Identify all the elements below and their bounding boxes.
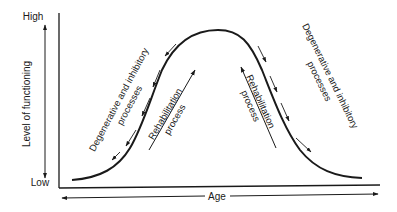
y-axis-high-label: High [23,11,44,22]
x-axis-arrow-left [62,196,205,198]
left-degenerative-arrow-5 [112,152,120,160]
y-axis-low-label: Low [31,177,50,188]
right-degenerative-arrow-4 [296,138,311,152]
x-axis-arrow-right [230,194,378,196]
x-axis-title: Age [208,191,226,202]
left-degenerative-line-1: Degenerative and inhibitory [87,46,151,154]
right-degenerative-arrow-1 [258,46,266,62]
right-degenerative-label: Degenerative and inhibitory processes [289,21,360,135]
functioning-vs-age-diagram: High Low Level of functioning Age Degene… [0,0,397,212]
right-rehabilitation-label: Rehabilitation process [234,73,278,135]
right-degenerative-arrow-2 [270,76,277,92]
x-axis-line [59,185,380,188]
right-degenerative-line-1: Degenerative and inhibitory [300,21,361,130]
y-axis-title: Level of functioning [21,61,32,147]
